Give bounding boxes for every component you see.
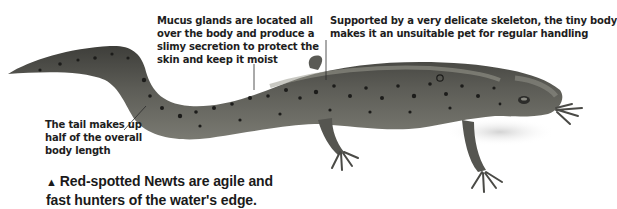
caption-text: Red-spotted Newts are agile and (60, 173, 273, 189)
annotation-skeleton: Supported by a very delicate skeleton, t… (330, 14, 617, 40)
annotation-line: makes it an unsuitable pet for regular h… (330, 27, 617, 40)
caption-line-2: fast hunters of the water's edge. (46, 191, 273, 209)
annotation-line: Supported by a very delicate skeleton, t… (330, 14, 617, 27)
annotation-line: The tail makes up (45, 118, 142, 131)
annotation-tail: The tail makes up half of the overall bo… (45, 118, 142, 157)
triangle-up-icon: ▲ (46, 176, 57, 188)
caption-line-1: ▲Red-spotted Newts are agile and (46, 172, 273, 191)
annotation-line: slimy secretion to protect the (157, 40, 319, 53)
figure-caption: ▲Red-spotted Newts are agile and fast hu… (46, 172, 273, 209)
annotation-line: skin and keep it moist (157, 53, 319, 66)
annotation-mucus-glands: Mucus glands are located all over the bo… (157, 14, 319, 66)
annotation-line: over the body and produce a (157, 27, 319, 40)
annotation-line: half of the overall (45, 131, 142, 144)
annotation-line: body length (45, 144, 142, 157)
annotation-line: Mucus glands are located all (157, 14, 319, 27)
